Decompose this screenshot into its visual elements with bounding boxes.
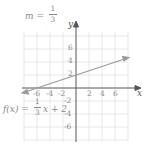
y-tick-neg6: -6: [64, 123, 71, 131]
slope-label: m =: [25, 12, 44, 21]
axes: [22, 21, 141, 142]
x-tick-neg2: -2: [58, 90, 65, 98]
slope-numerator: 1: [49, 5, 57, 15]
y-tick-2: 2: [68, 70, 73, 78]
function-prefix: f(x) =: [3, 104, 29, 114]
function-denominator: 3: [34, 108, 41, 117]
x-tick-6: 6: [113, 90, 118, 98]
x-tick-2: 2: [87, 90, 92, 98]
function-fraction: 1 3: [34, 98, 41, 116]
slope-prefix: m =: [25, 11, 44, 21]
x-tick-neg4: -4: [46, 90, 53, 98]
slope-denominator: 3: [49, 15, 57, 24]
coordinate-plane: [0, 0, 150, 151]
function-label: f(x) =: [3, 105, 29, 114]
x-tick-4: 4: [100, 90, 105, 98]
y-axis-label: y: [68, 20, 73, 29]
y-tick-4: 4: [68, 57, 73, 65]
function-numerator: 1: [34, 98, 41, 108]
x-axis-label: x: [137, 89, 142, 98]
function-suffix: x + 2: [43, 105, 67, 114]
slope-fraction: 1 3: [49, 5, 57, 23]
y-tick-6: 6: [68, 44, 73, 52]
